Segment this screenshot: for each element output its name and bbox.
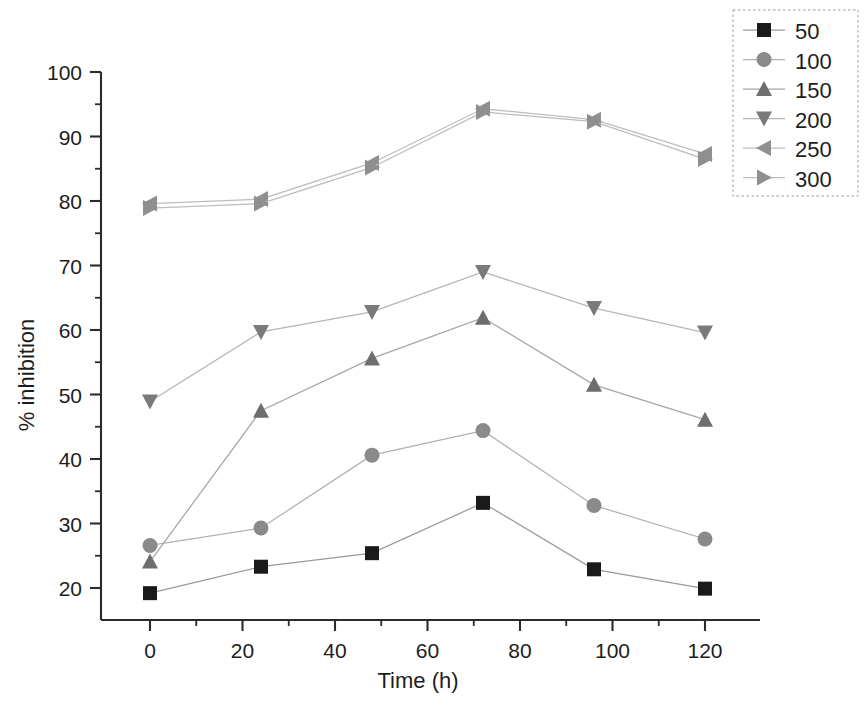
data-point-marker-triangle-down [475,265,491,280]
x-tick-label: 0 [144,639,156,662]
data-point-marker-triangle-down [253,325,269,340]
data-point-marker-square [587,562,601,576]
x-tick-label: 120 [687,639,722,662]
series-line-50 [150,503,705,593]
chart-figure: 2030405060708090100 020406080100120 Time… [0,0,866,720]
data-point-marker-circle [476,423,491,438]
data-point-marker-triangle-down [142,395,158,410]
y-tick-label: 100 [47,61,82,84]
legend-item-100[interactable]: 100 [743,49,832,74]
y-tick-label: 40 [59,448,82,471]
series-100 [143,423,713,553]
data-point-marker-triangle-left [756,140,771,156]
data-point-marker-circle [254,521,269,536]
legend-item-250[interactable]: 250 [743,137,832,162]
data-point-marker-triangle-up [142,554,158,569]
legend-item-50[interactable]: 50 [743,19,819,44]
y-tick-label: 80 [59,190,82,213]
chart-legend: 50100150200250300 [733,10,858,196]
legend-item-150[interactable]: 150 [743,78,832,103]
data-point-marker-square [698,582,712,596]
y-tick-label: 20 [59,577,82,600]
y-tick-label: 60 [59,319,82,342]
legend-label-150: 150 [795,78,832,103]
data-point-marker-square [254,560,268,574]
data-point-marker-triangle-down [586,301,602,316]
data-point-marker-circle [757,52,772,67]
data-series-group [142,101,713,600]
data-point-marker-square [143,586,157,600]
x-tick-label: 60 [416,639,439,662]
series-50 [143,496,712,600]
x-axis: 020406080100120 [101,620,760,662]
legend-label-100: 100 [795,49,832,74]
data-point-marker-triangle-up [364,350,380,365]
series-line-250 [150,109,705,204]
legend-label-50: 50 [795,19,819,44]
y-tick-label: 30 [59,513,82,536]
series-150 [142,310,713,569]
series-300 [143,104,713,216]
legend-item-300[interactable]: 300 [743,167,832,192]
data-point-marker-circle [143,538,158,553]
legend-label-300: 300 [795,167,832,192]
series-200 [142,265,713,410]
series-line-200 [150,272,705,402]
legend-label-250: 250 [795,137,832,162]
data-point-marker-triangle-up [475,310,491,325]
line-chart-canvas: 2030405060708090100 020406080100120 Time… [0,0,866,720]
series-line-150 [150,318,705,562]
data-point-marker-triangle-up [586,377,602,392]
legend-label-200: 200 [795,108,832,133]
data-point-marker-triangle-up [253,403,269,418]
data-point-marker-triangle-down [697,326,713,341]
x-tick-label: 100 [595,639,630,662]
data-point-marker-square [365,546,379,560]
x-tick-label: 40 [323,639,346,662]
data-point-marker-square [757,23,771,37]
y-tick-label: 50 [59,384,82,407]
series-line-300 [150,112,705,208]
y-axis: 2030405060708090100 [47,61,101,620]
data-point-marker-square [476,496,490,510]
y-tick-label: 70 [59,255,82,278]
y-tick-label: 90 [59,126,82,149]
x-axis-title: Time (h) [377,668,458,693]
x-tick-label: 20 [231,639,254,662]
data-point-marker-triangle-right [757,170,772,186]
x-tick-label: 80 [508,639,531,662]
y-axis-title: % inhibition [14,319,39,432]
data-point-marker-circle [698,531,713,546]
data-point-marker-circle [587,498,602,513]
data-point-marker-triangle-up [697,412,713,427]
data-point-marker-circle [365,448,380,463]
series-250 [142,101,712,212]
legend-item-200[interactable]: 200 [743,108,832,133]
